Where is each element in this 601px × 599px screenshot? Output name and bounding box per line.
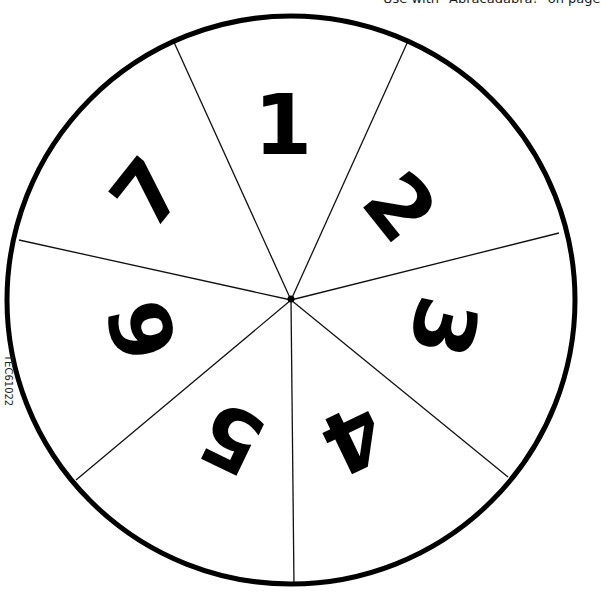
spinner-section-6: 6 (89, 291, 198, 370)
spinner-section-7: 7 (91, 140, 204, 247)
center-pivot[interactable] (288, 296, 295, 303)
spinner-section-4: 4 (305, 381, 400, 495)
product-code: TEC61022 (3, 355, 14, 406)
spinner-section-2: 2 (343, 154, 456, 261)
spinner-section-3: 3 (389, 288, 498, 367)
spinner-section-1: 1 (254, 76, 312, 174)
spinner-section-5: 5 (184, 381, 279, 495)
